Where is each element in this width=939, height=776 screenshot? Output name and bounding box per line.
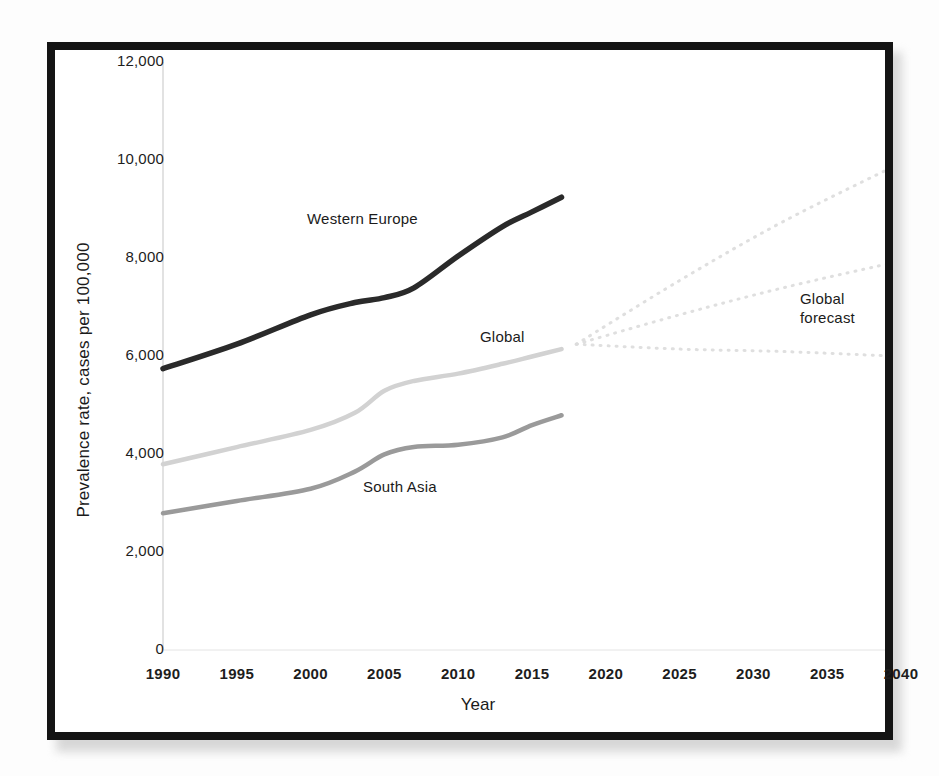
x-tick-label: 2010 [428,666,488,681]
x-axis-tick-labels: 1990199520002005201020152020202520302035… [55,50,901,748]
x-axis-title: Year [55,695,901,715]
x-tick-label: 2005 [354,666,414,681]
series-label-western-europe: Western Europe [307,210,418,229]
chart-frame: 02,0004,0006,0008,00010,00012,000 199019… [47,42,893,740]
plot-area: 02,0004,0006,0008,00010,00012,000 199019… [55,50,885,732]
x-tick-label: 2015 [502,666,562,681]
x-tick-label: 2020 [576,666,636,681]
series-label-south-asia: South Asia [363,478,437,497]
series-label-global-forecast: Global forecast [800,290,855,328]
figure-root: 02,0004,0006,0008,00010,00012,000 199019… [0,0,939,776]
x-tick-label: 1990 [133,666,193,681]
x-tick-label: 2035 [797,666,857,681]
x-tick-label: 1995 [207,666,267,681]
x-tick-label: 2025 [650,666,710,681]
series-label-global: Global [480,328,525,347]
x-tick-label: 2000 [281,666,341,681]
x-tick-label: 2030 [723,666,783,681]
x-tick-label: 2040 [871,666,931,681]
y-axis-title: Prevalence rate, cases per 100,000 [74,160,94,600]
